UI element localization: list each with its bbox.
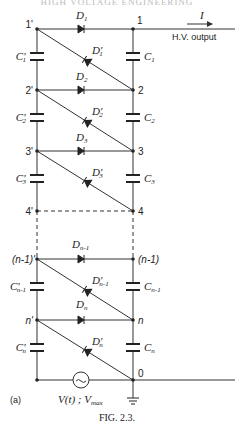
forward-diode-labels: D1 D2 D3 Dn-1 Dn (71, 9, 89, 312)
panel-label: (a) (10, 395, 21, 405)
diode-Dn-1-prime-icon (82, 286, 91, 296)
cockcroft-walton-circuit: HIGH VOLTAGE ENGINEERING (0, 0, 235, 428)
svg-text:D'3: D'3 (91, 166, 103, 180)
diode-D2-prime-icon (82, 117, 91, 127)
svg-text:Cn: Cn (144, 341, 155, 355)
ground-icon (127, 398, 139, 404)
node-labels: 1' 1 2' 2 3' 3 4' 4 (n-1)' (n-1) n' n 0 (12, 15, 159, 379)
svg-text:(n-1): (n-1) (138, 254, 159, 265)
svg-text:4: 4 (138, 206, 144, 217)
current-label: I (199, 9, 205, 21)
svg-text:Dn-1: Dn-1 (71, 238, 89, 252)
capacitor-C1-prime-icon (30, 53, 44, 60)
svg-text:C2: C2 (144, 111, 155, 125)
svg-text:2: 2 (138, 85, 144, 96)
svg-text:D'n-1: D'n-1 (91, 274, 109, 288)
diode-D3-icon (78, 147, 84, 155)
capacitor-C2-icon (126, 114, 140, 121)
hv-output-label: H.V. output (172, 32, 217, 42)
svg-text:D2: D2 (75, 70, 88, 84)
svg-text:D'1: D'1 (91, 44, 103, 58)
diode-Dn-prime-icon (82, 346, 91, 356)
svg-text:1': 1' (26, 19, 34, 30)
horizontal-rungs (37, 29, 235, 380)
svg-text:3: 3 (138, 146, 144, 157)
svg-text:1: 1 (137, 15, 143, 26)
svg-text:C'1: C'1 (16, 50, 26, 64)
capacitor-C2-prime-icon (30, 114, 44, 121)
svg-text:2': 2' (26, 85, 34, 96)
capacitor-C3-icon (126, 175, 140, 182)
diode-Dn-icon (78, 316, 84, 324)
diode-Dn-1-icon (78, 255, 84, 263)
svg-text:Cn-1: Cn-1 (144, 280, 161, 294)
svg-text:n: n (138, 315, 144, 326)
svg-text:C'n-1: C'n-1 (10, 280, 26, 294)
diode-D1-prime-icon (82, 56, 91, 66)
diode-D2-icon (78, 86, 84, 94)
svg-text:C'3: C'3 (16, 172, 27, 186)
svg-text:D'2: D'2 (91, 105, 103, 119)
capacitor-Cn-1-prime-icon (30, 283, 44, 290)
svg-text:C1: C1 (144, 50, 155, 64)
svg-text:D'n: D'n (91, 335, 103, 349)
capacitor-Cn-1-icon (126, 283, 140, 290)
svg-text:0: 0 (138, 368, 144, 379)
diode-D3-prime-icon (82, 177, 91, 187)
svg-text:(n-1)': (n-1)' (12, 254, 36, 265)
svg-text:3': 3' (26, 146, 34, 157)
svg-text:C'n: C'n (16, 341, 27, 355)
capacitor-C1-icon (126, 53, 140, 60)
svg-text:C3: C3 (144, 172, 155, 186)
svg-text:C'2: C'2 (16, 111, 27, 125)
source-label: V(t) ; Vmax (58, 393, 104, 407)
svg-text:D3: D3 (75, 131, 88, 145)
svg-text:D1: D1 (75, 9, 87, 23)
capacitor-C3-prime-icon (30, 175, 44, 182)
figure-caption: FIG. 2.3. (99, 412, 135, 423)
diode-D1-icon (78, 25, 84, 33)
svg-text:n': n' (26, 315, 35, 326)
capacitor-Cn-prime-icon (30, 344, 44, 351)
ac-source-icon (73, 372, 89, 388)
page-header: HIGH VOLTAGE ENGINEERING (41, 0, 194, 7)
svg-text:Dn: Dn (75, 298, 88, 312)
svg-text:4': 4' (26, 206, 34, 217)
capacitor-Cn-icon (126, 344, 140, 351)
